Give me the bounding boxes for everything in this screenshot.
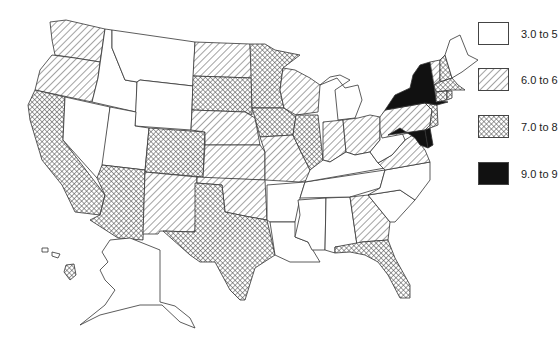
state-wi	[280, 68, 320, 115]
legend-label: 9.0 to 9	[521, 168, 558, 180]
state-nd	[193, 42, 252, 78]
state-co	[145, 128, 205, 177]
legend-swatch-crosshatch	[478, 115, 509, 138]
state-hi	[64, 264, 76, 280]
state-ia	[252, 108, 296, 137]
legend-swatch-blank	[478, 22, 509, 45]
state-wy	[135, 80, 193, 130]
us-choropleth-map	[0, 0, 559, 351]
legend-label: 7.0 to 8	[521, 121, 558, 133]
state-me	[445, 35, 478, 78]
state-ak	[80, 238, 195, 328]
state-fl	[335, 240, 410, 298]
legend-item-3-to-5: 3.0 to 5	[478, 22, 558, 45]
legend-item-6-to-6: 6.0 to 6	[478, 68, 558, 91]
legend-label: 6.0 to 6	[521, 74, 558, 86]
state-sd	[192, 76, 252, 115]
state-mi	[320, 75, 362, 120]
state-ct	[436, 91, 447, 102]
legend-item-9-to-9: 9.0 to 9	[478, 162, 558, 185]
legend-swatch-solid	[478, 162, 509, 185]
legend-label: 3.0 to 5	[521, 28, 558, 40]
state-nm	[143, 172, 197, 234]
state-mt	[112, 30, 195, 86]
legend-swatch-diagonal	[478, 68, 509, 91]
state-ks	[203, 145, 265, 180]
legend-item-7-to-8: 7.0 to 8	[478, 115, 558, 138]
state-hi-island	[42, 248, 48, 252]
state-ri	[447, 91, 452, 100]
state-hi-island	[52, 252, 60, 258]
